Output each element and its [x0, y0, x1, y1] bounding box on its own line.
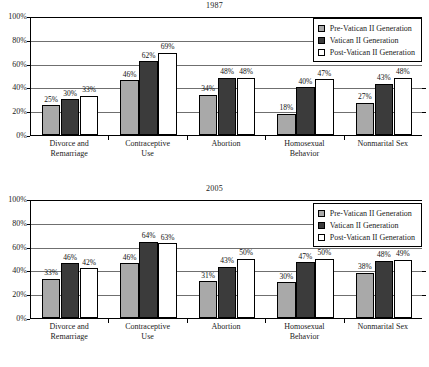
bar-value-label: 33% — [39, 269, 64, 277]
bar[interactable] — [80, 96, 99, 135]
legend-item[interactable]: Pre-Vatican II Generation — [318, 22, 415, 34]
bar[interactable] — [80, 268, 99, 318]
legend: Pre-Vatican II GenerationVatican II Gene… — [313, 203, 422, 247]
bar[interactable] — [375, 84, 394, 135]
bar[interactable] — [315, 259, 334, 319]
legend-swatch-icon — [318, 222, 325, 229]
category-label-line: Contraceptive — [108, 139, 186, 149]
bar[interactable] — [356, 273, 375, 318]
x-axis-category-label: Divorce andRemarriage — [30, 322, 108, 342]
y-axis-tick — [27, 41, 30, 42]
bar[interactable] — [237, 259, 256, 319]
bar[interactable] — [394, 78, 413, 135]
legend-item[interactable]: Post-Vatican II Generation — [318, 46, 415, 58]
bar[interactable] — [218, 78, 237, 135]
bar[interactable] — [356, 103, 375, 135]
axis-tick-right — [422, 88, 426, 89]
y-axis-tick — [27, 112, 30, 113]
bar[interactable] — [199, 95, 218, 135]
bar[interactable] — [61, 263, 80, 318]
chart-title: 1987 — [0, 1, 429, 10]
y-axis-tick-label: 0% — [16, 315, 27, 323]
bar[interactable] — [199, 281, 218, 318]
y-axis-tick-label: 0% — [16, 132, 27, 140]
bar[interactable] — [120, 263, 139, 318]
legend: Pre-Vatican II GenerationVatican II Gene… — [313, 18, 422, 62]
bar[interactable] — [158, 243, 177, 318]
bar-value-label: 48% — [391, 68, 416, 76]
category-label-line: Abortion — [187, 139, 265, 149]
legend-swatch-icon — [318, 37, 325, 44]
x-axis-category-label: Abortion — [187, 322, 265, 332]
category-label-line: Contraceptive — [108, 322, 186, 332]
bar[interactable] — [394, 260, 413, 318]
bar-group: 25%30%33% — [42, 16, 99, 135]
y-axis-tick — [27, 319, 30, 320]
bar-value-label: 42% — [77, 259, 102, 267]
y-axis-tick — [27, 248, 30, 249]
bar[interactable] — [139, 242, 158, 318]
category-label-line: Behavior — [265, 149, 343, 159]
x-axis-category-label: Divorce andRemarriage — [30, 139, 108, 159]
bar[interactable] — [237, 78, 256, 135]
category-label-line: Remarriage — [30, 332, 108, 342]
chart-title: 2005 — [0, 184, 429, 193]
axis-tick-right — [422, 112, 426, 113]
bar[interactable] — [61, 99, 80, 135]
bar[interactable] — [139, 61, 158, 135]
category-label-line: Homosexual — [265, 322, 343, 332]
bar[interactable] — [375, 261, 394, 318]
x-axis-category-label: ContraceptiveUse — [108, 322, 186, 342]
legend-swatch-icon — [318, 25, 325, 32]
axis-tick-right — [422, 271, 426, 272]
bar-value-label: 30% — [274, 273, 299, 281]
chart-1987: 1987 0%20%40%60%80%100% 25%30%33%46%62%6… — [0, 0, 429, 183]
y-axis-tick — [27, 136, 30, 137]
bar[interactable] — [42, 279, 61, 318]
bar-value-label: 40% — [293, 78, 318, 86]
x-axis-category-label: Nonmarital Sex — [344, 139, 422, 149]
axis-tick-right — [422, 295, 426, 296]
bar[interactable] — [296, 87, 315, 135]
bar-value-label: 48% — [234, 68, 259, 76]
bar-value-label: 34% — [196, 85, 221, 93]
y-axis-tick-label: 20% — [12, 291, 27, 299]
bar[interactable] — [120, 80, 139, 135]
bar-value-label: 31% — [196, 272, 221, 280]
bar[interactable] — [296, 262, 315, 318]
category-label-line: Divorce and — [30, 322, 108, 332]
category-label-line: Abortion — [187, 322, 265, 332]
bar[interactable] — [277, 114, 296, 135]
x-axis-category-label: Nonmarital Sex — [344, 322, 422, 332]
bar[interactable] — [315, 79, 334, 135]
figure-container: 1987 0%20%40%60%80%100% 25%30%33%46%62%6… — [0, 0, 429, 367]
legend-swatch-icon — [318, 234, 325, 241]
y-axis-tick-label: 20% — [12, 108, 27, 116]
bar-group: 34%48%48% — [199, 16, 256, 135]
bar-group: 46%64%63% — [120, 199, 177, 318]
x-axis-category-label: Abortion — [187, 139, 265, 149]
bar-value-label: 50% — [312, 249, 337, 257]
y-axis-tick — [27, 271, 30, 272]
legend-item[interactable]: Vatican II Generation — [318, 34, 415, 46]
y-axis-tick — [27, 200, 30, 201]
bar[interactable] — [42, 105, 61, 135]
legend-item[interactable]: Vatican II Generation — [318, 219, 415, 231]
category-label-line: Divorce and — [30, 139, 108, 149]
bar[interactable] — [218, 267, 237, 318]
legend-item[interactable]: Post-Vatican II Generation — [318, 231, 415, 243]
x-axis-category-label: HomosexualBehavior — [265, 322, 343, 342]
y-axis-tick-label: 60% — [12, 244, 27, 252]
y-axis-tick — [27, 88, 30, 89]
bar[interactable] — [277, 282, 296, 318]
legend-label: Pre-Vatican II Generation — [330, 209, 412, 218]
category-label-line: Use — [108, 332, 186, 342]
bar-value-label: 46% — [117, 71, 142, 79]
y-axis-tick-label: 100% — [8, 13, 27, 21]
legend-label: Post-Vatican II Generation — [330, 233, 415, 242]
bar-group: 31%43%50% — [199, 199, 256, 318]
legend-item[interactable]: Pre-Vatican II Generation — [318, 207, 415, 219]
y-axis-tick — [27, 65, 30, 66]
bar[interactable] — [158, 53, 177, 135]
bar-group: 46%62%69% — [120, 16, 177, 135]
